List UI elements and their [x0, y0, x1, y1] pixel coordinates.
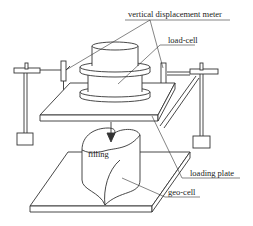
label-load-cell: load-cell — [168, 36, 198, 45]
label-filling: filling — [88, 150, 109, 159]
load-cell — [80, 42, 150, 102]
apparatus-diagram — [0, 0, 253, 226]
label-vertical-displacement-meter: vertical displacement meter — [128, 10, 222, 19]
right-support-stand — [160, 63, 218, 148]
label-geo-cell: geo-cell — [168, 188, 195, 197]
label-loading-plate: loading plate — [190, 169, 234, 178]
